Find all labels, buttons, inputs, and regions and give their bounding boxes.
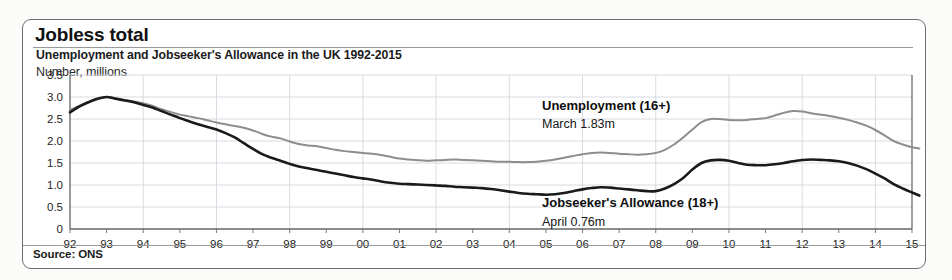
x-tick-label: 05	[540, 238, 553, 250]
x-tick-label: 11	[760, 238, 772, 250]
x-axis-labels: 9293949596979899000102030405060708091011…	[64, 238, 919, 250]
x-tick-label: 00	[356, 238, 369, 250]
x-tick-label: 03	[466, 238, 479, 250]
y-axis-labels: 00.51.01.52.02.53.03.5	[47, 69, 63, 235]
x-tick-label: 96	[210, 238, 223, 250]
x-tick-label: 94	[137, 238, 150, 250]
x-tick-label: 10	[723, 238, 736, 250]
y-tick-label: 1.0	[47, 179, 63, 191]
axis-lines	[70, 75, 912, 229]
x-tick-label: 01	[393, 238, 406, 250]
x-tick-label: 98	[283, 238, 296, 250]
x-tick-label: 13	[832, 238, 845, 250]
x-tick-label: 08	[649, 238, 662, 250]
annotation-unemployment-label: Unemployment (16+)	[542, 98, 670, 113]
x-tick-label: 99	[320, 238, 333, 250]
annotation-unemployment-value: March 1.83m	[542, 117, 615, 131]
x-tick-label: 12	[796, 238, 809, 250]
x-tick-label: 14	[869, 238, 882, 250]
y-tick-label: 3.5	[47, 69, 63, 81]
y-tick-label: 0	[57, 223, 63, 235]
chart-page: Jobless total Unemployment and Jobseeker…	[0, 0, 952, 280]
annotation-jsa-value: April 0.76m	[542, 215, 605, 229]
gridlines	[70, 75, 912, 229]
y-tick-label: 0.5	[47, 201, 63, 213]
x-tick-label: 09	[686, 238, 699, 250]
x-tick-label: 97	[247, 238, 260, 250]
annotation-jsa-label: Jobseeker's Allowance (18+)	[542, 195, 718, 210]
x-tick-label: 06	[576, 238, 589, 250]
x-tick-label: 02	[430, 238, 443, 250]
chart-card: Jobless total Unemployment and Jobseeker…	[22, 19, 926, 269]
x-tick-label: 07	[613, 238, 626, 250]
series-line-unemployment	[70, 97, 919, 162]
x-tick-label: 15	[906, 238, 919, 250]
y-tick-label: 2.5	[47, 113, 63, 125]
x-tick-label: 04	[503, 238, 516, 250]
y-tick-label: 1.5	[47, 157, 63, 169]
y-tick-label: 3.0	[47, 91, 63, 103]
line-chart: 00.51.01.52.02.53.03.5 92939495969798990…	[23, 20, 926, 269]
x-tick-label: 95	[173, 238, 186, 250]
source-note: Source: ONS	[33, 248, 103, 260]
y-tick-label: 2.0	[47, 135, 63, 147]
footer-divider	[23, 245, 926, 246]
